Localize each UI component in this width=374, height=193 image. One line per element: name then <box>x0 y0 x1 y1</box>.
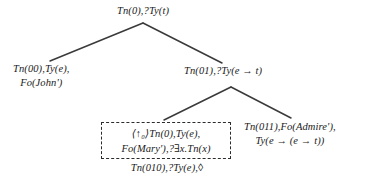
edge-right-boxed <box>164 87 231 120</box>
tree-node-right-line1: Tn(01),?Ty(e → t) <box>184 65 262 76</box>
tree-node-boxed-caption: Tn(010),?Ty(e),◊ <box>106 161 228 175</box>
tree-node-root: Tn(0),?Ty(t) <box>117 4 169 18</box>
tree-node-right: Tn(01),?Ty(e → t) <box>184 64 262 78</box>
tree-node-boxed: ⟨↑₀⟩Tn(0),Ty(e), Fo(Mary'),?∃x.Tn(x) <box>101 122 231 159</box>
tree-node-right-lower-line2: Ty(e → (e → t)) <box>244 134 336 148</box>
tree-node-right-lower: Tn(011),Fo(Admire'), Ty(e → (e → t)) <box>244 120 336 147</box>
diagram-canvas: Tn(0),?Ty(t) Tn(00),Ty(e), Fo(John') Tn(… <box>0 0 374 193</box>
tree-node-boxed-line1: ⟨↑₀⟩Tn(0),Ty(e), <box>132 126 201 141</box>
tree-node-boxed-line2: Fo(Mary'),?∃x.Tn(x) <box>121 141 210 156</box>
tree-node-left: Tn(00),Ty(e), Fo(John') <box>13 62 70 89</box>
edge-root-left <box>50 23 143 61</box>
tree-node-left-line1: Tn(00),Ty(e), <box>13 63 70 74</box>
tree-node-boxed-caption-text: Tn(010),?Ty(e),◊ <box>131 162 204 173</box>
tree-node-root-line1: Tn(0),?Ty(t) <box>117 5 169 16</box>
edge-root-right <box>143 23 222 63</box>
tree-node-right-lower-line1: Tn(011),Fo(Admire'), <box>244 121 336 132</box>
tree-node-left-line2: Fo(John') <box>13 76 70 90</box>
edge-right-rightlower <box>231 87 291 118</box>
